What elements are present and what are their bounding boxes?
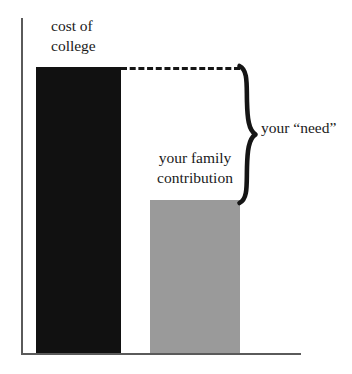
label-cost-of-college: cost of college xyxy=(51,16,96,56)
bar-cost-of-college xyxy=(36,67,121,353)
bar-family-contribution xyxy=(150,200,240,353)
y-axis-line xyxy=(21,18,23,355)
label-family-contribution: your family contribution xyxy=(145,148,245,188)
dashed-reference-line-icon xyxy=(121,67,240,70)
label-your-need: your “need” xyxy=(261,118,336,138)
college-cost-need-diagram: cost of college your family contribution… xyxy=(0,0,352,374)
x-axis-line xyxy=(21,353,301,355)
